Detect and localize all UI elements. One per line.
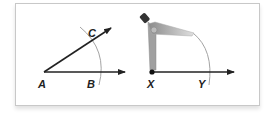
label-y: Y [198,78,207,90]
label-c: C [88,27,97,39]
label-a: A [37,78,46,90]
panel-copy-construction: X Y [139,12,234,90]
panel-original-angle: A B C [37,27,125,90]
label-x: X [146,78,155,90]
diagram-canvas: A B C X Y [0,0,271,115]
compass-icon [139,12,194,74]
label-b: B [87,78,95,90]
